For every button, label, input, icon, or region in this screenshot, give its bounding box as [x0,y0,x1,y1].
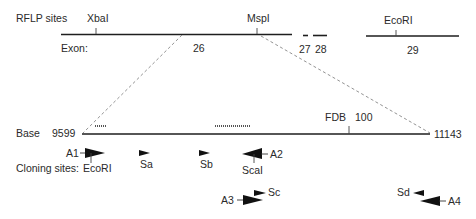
base-start-label: 9599 [52,127,76,139]
primer-sd-arrow-icon [413,190,424,196]
primer-a1-arrow-icon [85,148,105,158]
rflp-exon-primer-diagram: RFLP sites XbaI MspI EcoRI Exon: 26 27 2… [0,0,476,219]
primer-a4-arrow-icon [420,196,440,206]
xbai-site-label: XbaI [87,12,109,24]
primer-sb-label: Sb [200,158,213,170]
exon-label: Exon: [61,42,88,54]
exon-29-label: 29 [407,44,419,56]
primer-sc-label: Sc [268,186,280,198]
primer-sd-label: Sd [397,186,410,198]
base-end-label: 11143 [434,128,462,140]
primer-a2-label: A2 [270,148,283,160]
primer-a2-arrow-icon [242,148,262,159]
primer-a3-arrow-icon [243,195,263,205]
projection-line-left [83,35,182,133]
ecori-site-label: EcoRI [384,14,413,26]
mspi-site-label: MspI [247,12,270,24]
base-label: Base [16,127,40,139]
cloning-sites-label: Cloning sites: [16,162,79,174]
exon-26-label: 26 [193,42,205,54]
scai-cloning-label: ScaI [242,164,263,176]
fdb-value: 100 [355,111,373,123]
exon-28-label: 28 [315,43,327,55]
rflp-sites-label: RFLP sites [16,12,67,24]
exon-27-label: 27 [299,43,311,55]
primer-sa-arrow-icon [139,150,150,156]
fdb-label: FDB [325,111,346,123]
primer-a1-label: A1 [66,147,79,159]
primer-sc-arrow-icon [254,190,266,196]
primer-sa-label: Sa [140,158,153,170]
primer-a3-label: A3 [221,194,234,206]
primer-a4-label: A4 [448,195,461,207]
primer-sb-arrow-icon [199,150,210,156]
ecori-cloning-label: EcoRI [83,162,112,174]
